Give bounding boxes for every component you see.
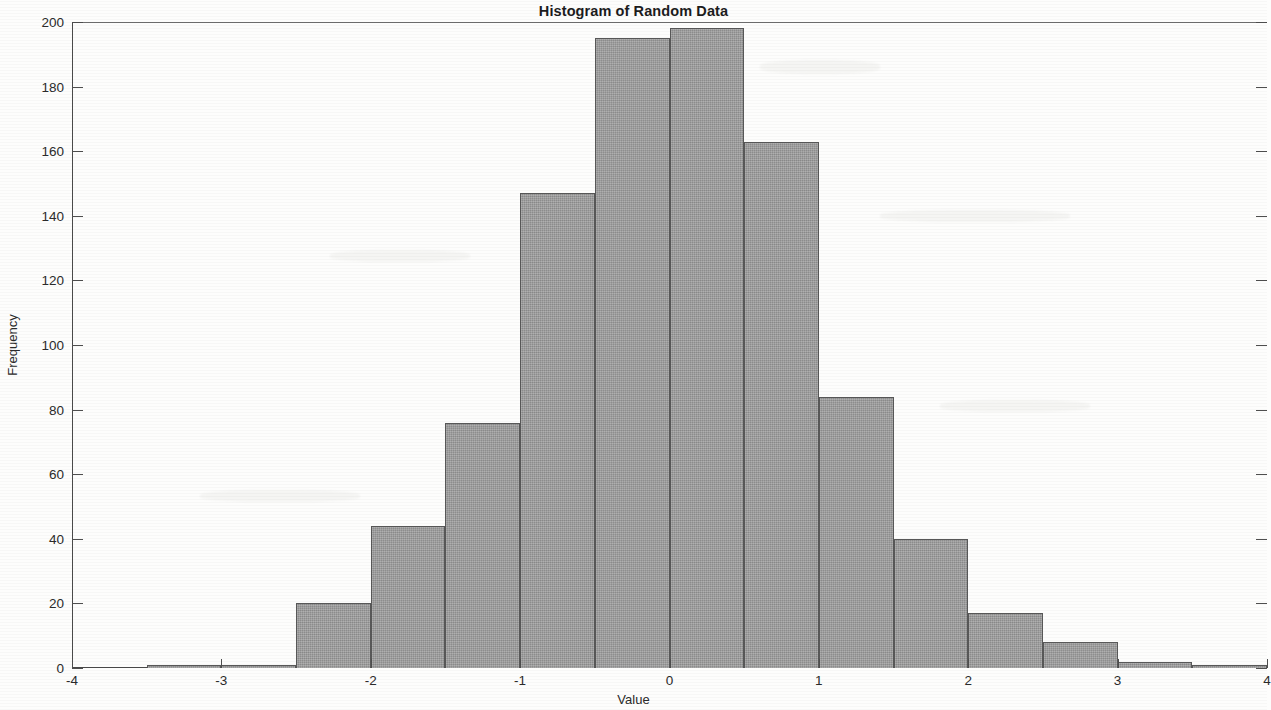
y-axis-tick-right [1256, 668, 1267, 669]
x-axis-tick [1267, 659, 1268, 668]
y-axis-label-wrapper: Frequency [14, 0, 34, 710]
y-axis-tick-right [1256, 22, 1267, 23]
y-axis-tick [72, 474, 83, 475]
y-axis-tick-right [1256, 87, 1267, 88]
plot-area [72, 22, 1267, 668]
y-axis-tick [72, 280, 83, 281]
y-axis-tick-label: 0 [56, 661, 64, 676]
x-axis-tick [371, 659, 372, 668]
y-axis-tick-right [1256, 539, 1267, 540]
histogram-bar [371, 526, 446, 668]
y-axis-tick-right [1256, 151, 1267, 152]
histogram-bar [819, 397, 894, 668]
histogram-bar [968, 613, 1043, 668]
y-axis-tick-label: 120 [41, 273, 64, 288]
y-axis-tick [72, 151, 83, 152]
y-axis-tick-label: 200 [41, 15, 64, 30]
histogram-bar [1118, 662, 1193, 668]
x-axis-tick-label: 1 [815, 673, 823, 688]
y-axis-tick [72, 216, 83, 217]
y-axis-tick-right [1256, 345, 1267, 346]
x-axis-tick-label: 0 [666, 673, 674, 688]
y-axis-tick [72, 22, 83, 23]
histogram-bar [221, 665, 296, 668]
y-axis-tick [72, 668, 83, 669]
y-axis-tick-label: 80 [49, 402, 64, 417]
chart-title: Histogram of Random Data [0, 3, 1267, 19]
y-axis-tick-label: 160 [41, 144, 64, 159]
x-axis-tick-label: -1 [514, 673, 526, 688]
x-axis-tick [1118, 659, 1119, 668]
y-axis-tick-label: 100 [41, 338, 64, 353]
x-axis-tick-label: -3 [215, 673, 227, 688]
x-axis-tick [819, 659, 820, 668]
x-axis-tick [670, 659, 671, 668]
histogram-bar [296, 603, 371, 668]
histogram-bar [445, 423, 520, 668]
histogram-bar [744, 142, 819, 668]
histogram-bar [1043, 642, 1118, 668]
x-axis-tick [221, 659, 222, 668]
y-axis-tick-right [1256, 474, 1267, 475]
y-axis-tick-label: 180 [41, 79, 64, 94]
y-axis-tick-label: 140 [41, 208, 64, 223]
x-axis-tick [72, 659, 73, 668]
y-axis-tick-right [1256, 280, 1267, 281]
y-axis-tick [72, 87, 83, 88]
y-axis-tick-label: 40 [49, 531, 64, 546]
y-axis-tick-right [1256, 410, 1267, 411]
y-axis-tick [72, 345, 83, 346]
y-axis-tick [72, 603, 83, 604]
histogram-bar [670, 28, 745, 668]
histogram-bar [520, 193, 595, 668]
y-axis-tick-right [1256, 603, 1267, 604]
y-axis-tick [72, 410, 83, 411]
y-axis-tick-right [1256, 216, 1267, 217]
x-axis-tick-label: 3 [1114, 673, 1122, 688]
histogram-bar [894, 539, 969, 668]
x-axis-tick [520, 659, 521, 668]
y-axis-tick-label: 20 [49, 596, 64, 611]
x-axis-tick-label: 2 [964, 673, 972, 688]
y-axis-label: Frequency [5, 285, 20, 405]
x-axis-tick [968, 659, 969, 668]
x-axis-tick-label: 4 [1263, 673, 1271, 688]
histogram-bar [147, 665, 222, 668]
y-axis-tick-label: 60 [49, 467, 64, 482]
x-axis-tick-label: -4 [66, 673, 78, 688]
histogram-bar [595, 38, 670, 668]
x-axis-tick-label: -2 [365, 673, 377, 688]
y-axis-tick [72, 539, 83, 540]
x-axis-label: Value [0, 692, 1267, 707]
